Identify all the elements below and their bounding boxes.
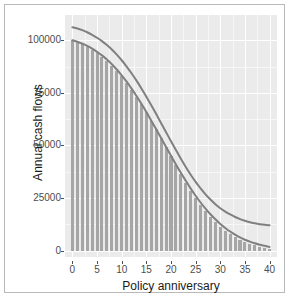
x-axis-tick-mark [245,261,246,264]
x-axis-tick-mark [196,261,197,264]
y-axis-tick-mark [61,251,64,252]
y-axis-tick-mark [61,198,64,199]
line-series [65,15,277,257]
x-axis-tick-label: 35 [239,265,250,275]
y-axis-title: Annual cash flows [32,43,45,223]
lower-curve-path [72,40,269,247]
x-axis-tick-mark [171,261,172,264]
x-axis-tick-label: 0 [70,265,76,275]
chart-figure: 0250005000075000100000 0510152025303540 … [0,0,289,304]
x-axis-tick-labels: 0510152025303540 [65,261,277,277]
x-axis-tick-label: 20 [165,265,176,275]
x-axis-tick-label: 5 [94,265,100,275]
x-axis-tick-mark [220,261,221,264]
x-axis-title: Policy anniversary [65,280,277,293]
y-axis-tick-mark [61,145,64,146]
x-axis-tick-label: 10 [116,265,127,275]
x-axis-tick-label: 25 [190,265,201,275]
plot-panel [65,15,277,257]
x-axis-tick-mark [146,261,147,264]
x-axis-tick-label: 30 [215,265,226,275]
x-axis-tick-mark [122,261,123,264]
x-axis-tick-label: 15 [141,265,152,275]
y-axis-tick-label: 0 [55,246,61,256]
y-axis-tick-mark [61,93,64,94]
x-axis-tick-mark [72,261,73,264]
x-axis-tick-label: 40 [264,265,275,275]
x-axis-tick-mark [270,261,271,264]
x-axis-tick-mark [97,261,98,264]
upper-curve-path [72,27,269,225]
figure-frame: 0250005000075000100000 0510152025303540 … [4,4,285,293]
y-axis-tick-mark [61,40,64,41]
